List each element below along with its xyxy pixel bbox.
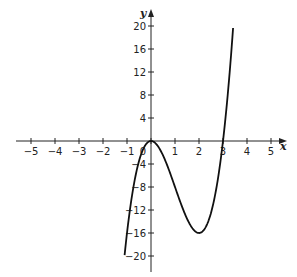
y-tick-label: 12 — [133, 67, 146, 78]
x-tick-label: 4 — [244, 146, 250, 157]
x-tick-label: 2 — [196, 146, 202, 157]
x-tick-label: 5 — [268, 146, 274, 157]
y-tick-label: 20 — [133, 21, 146, 32]
x-axis-label: x — [279, 140, 287, 153]
y-tick-label: 16 — [133, 44, 146, 55]
x-tick-label: −4 — [48, 146, 63, 157]
y-tick-label: −20 — [125, 251, 146, 262]
x-tick-label: −2 — [96, 146, 111, 157]
x-tick-label: −5 — [24, 146, 39, 157]
x-tick-label: 1 — [172, 146, 178, 157]
x-tick-label: −3 — [72, 146, 87, 157]
y-tick-label: 8 — [140, 90, 146, 101]
function-curve — [125, 28, 233, 255]
y-tick-label: −12 — [125, 205, 146, 216]
y-tick-label: 4 — [140, 113, 146, 124]
y-arrow-icon — [148, 9, 154, 17]
function-graph: −5−4−3−2−1012345−20−16−12−8−448121620 x … — [0, 0, 297, 277]
x-tick-label: −1 — [120, 146, 135, 157]
y-axis-label: y — [139, 7, 148, 20]
